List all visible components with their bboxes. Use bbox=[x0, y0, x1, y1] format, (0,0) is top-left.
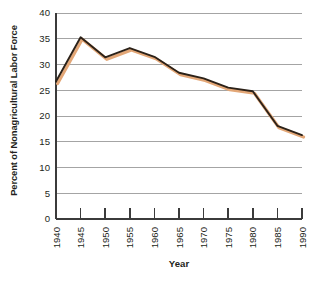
x-tick-label: 1950 bbox=[100, 227, 111, 248]
line-chart-plot: 0510152025303540 19401945195019551960196… bbox=[0, 0, 311, 281]
y-tick-label: 30 bbox=[39, 59, 50, 70]
y-tick-label: 20 bbox=[39, 110, 50, 121]
data-line bbox=[56, 37, 302, 135]
x-tick-label: 1940 bbox=[51, 227, 62, 248]
y-tick-label: 40 bbox=[39, 7, 50, 18]
x-tick-label: 1955 bbox=[124, 227, 135, 248]
x-tick-label: 1990 bbox=[297, 227, 308, 248]
data-line-shadow bbox=[58, 39, 304, 137]
y-tick-label: 35 bbox=[39, 33, 50, 44]
y-tick-label: 0 bbox=[45, 213, 50, 224]
y-tick-label: 25 bbox=[39, 85, 50, 96]
x-tick-label: 1960 bbox=[149, 227, 160, 248]
x-tick-label: 1970 bbox=[198, 227, 209, 248]
x-axis-title: Year bbox=[56, 258, 302, 269]
x-tick-labels: 1940194519501955196019651970197519801985… bbox=[51, 227, 308, 248]
data-series-group bbox=[56, 37, 304, 137]
gridlines-group bbox=[56, 13, 302, 193]
y-tick-label: 15 bbox=[39, 136, 50, 147]
x-tick-marks bbox=[56, 208, 302, 219]
x-tick-label: 1980 bbox=[247, 227, 258, 248]
chart-figure: Percent of Nonagricultural Labor Force 0… bbox=[0, 0, 311, 281]
caption-fragment bbox=[60, 271, 260, 280]
x-tick-label: 1985 bbox=[272, 227, 283, 248]
x-tick-label: 1965 bbox=[174, 227, 185, 248]
x-tick-label: 1945 bbox=[75, 227, 86, 248]
y-tick-label: 10 bbox=[39, 162, 50, 173]
y-tick-labels: 0510152025303540 bbox=[39, 7, 50, 224]
y-tick-label: 5 bbox=[45, 188, 50, 199]
x-tick-label: 1975 bbox=[223, 227, 234, 248]
